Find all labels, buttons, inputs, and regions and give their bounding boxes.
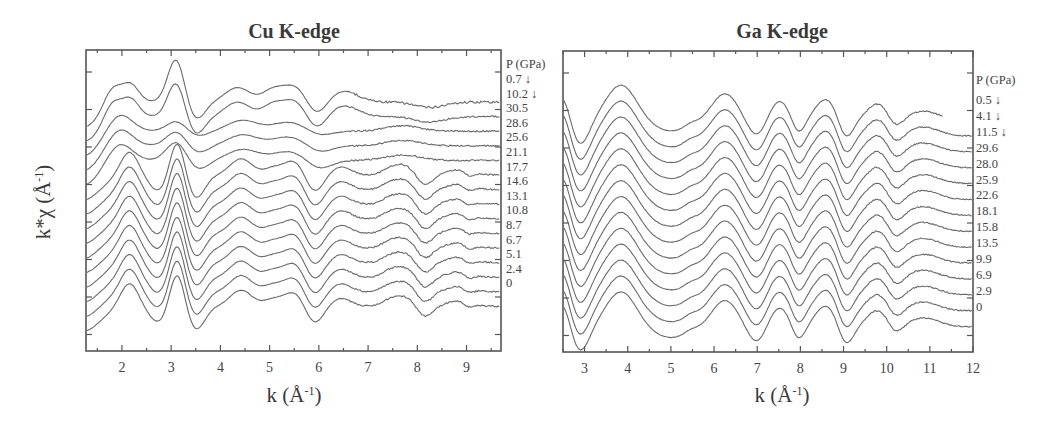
ga-title: Ga K-edge bbox=[736, 20, 828, 43]
legend-label: 6.9 bbox=[976, 268, 992, 282]
legend-label: 28.6 bbox=[506, 116, 528, 130]
legend-label: 2.4 bbox=[506, 262, 522, 276]
x-tick-label: 7 bbox=[754, 361, 761, 376]
legend-label: 22.6 bbox=[976, 188, 998, 202]
x-tick-label: 12 bbox=[966, 361, 980, 376]
cu-panel: Cu K-edge 23456789 k (Å-1) P (GPa) 0.7 ↓… bbox=[86, 20, 545, 407]
cu-x-axis-label: k (Å-1) bbox=[267, 383, 322, 407]
ga-curves bbox=[564, 85, 972, 350]
x-tick-label: 5 bbox=[667, 361, 674, 376]
ga-panel: Ga K-edge 3456789101112 k (Å-1) P (GPa) … bbox=[563, 20, 1015, 407]
legend-label: 0 bbox=[976, 300, 982, 314]
spectrum-curve-25.6 bbox=[87, 143, 499, 185]
legend-label: 6.7 bbox=[506, 233, 522, 247]
x-tick-label: 10 bbox=[880, 361, 894, 376]
legend-label: 11.5 ↓ bbox=[976, 125, 1007, 139]
cu-title: Cu K-edge bbox=[248, 20, 340, 43]
legend-label: 8.7 bbox=[506, 218, 522, 232]
legend-label: 25.9 bbox=[976, 173, 998, 187]
exafs-figure: k*χ (Å-1) Cu K-edge 23456789 k (Å-1) P (… bbox=[0, 0, 1064, 434]
legend-label: 14.6 bbox=[506, 174, 528, 188]
cu-legend: 0.7 ↓10.2 ↓30.528.625.621.117.714.613.11… bbox=[506, 72, 537, 290]
cu-curves bbox=[87, 60, 499, 331]
spectrum-curve-0 bbox=[564, 292, 972, 350]
spectrum-curve-0.5 bbox=[564, 85, 943, 143]
legend-label: 21.1 bbox=[506, 145, 528, 159]
legend-label: 13.5 bbox=[976, 236, 998, 250]
legend-label: 4.1 ↓ bbox=[976, 109, 1001, 123]
legend-label: 9.9 bbox=[976, 252, 992, 266]
ga-legend: 0.5 ↓4.1 ↓11.5 ↓29.628.025.922.618.115.8… bbox=[976, 93, 1007, 314]
ga-legend-title: P (GPa) bbox=[976, 73, 1015, 87]
spectrum-curve-28.6 bbox=[87, 130, 499, 170]
legend-label: 0.7 ↓ bbox=[506, 72, 531, 86]
x-tick-label: 11 bbox=[923, 361, 936, 376]
y-axis-label: k*χ (Å-1) bbox=[31, 165, 55, 240]
legend-label: 18.1 bbox=[976, 204, 998, 218]
cu-frame bbox=[86, 50, 501, 351]
x-tick-label: 4 bbox=[624, 361, 631, 376]
x-tick-label: 4 bbox=[217, 360, 224, 375]
cu-ticks bbox=[86, 50, 501, 351]
spectrum-curve-10.2 bbox=[87, 84, 499, 141]
x-tick-label: 2 bbox=[118, 360, 125, 375]
x-tick-label: 9 bbox=[840, 361, 847, 376]
legend-label: 29.6 bbox=[976, 141, 998, 155]
legend-label: 28.0 bbox=[976, 157, 998, 171]
legend-label: 0.5 ↓ bbox=[976, 93, 1001, 107]
x-tick-label: 9 bbox=[463, 360, 470, 375]
cu-legend-title: P (GPa) bbox=[506, 57, 545, 71]
cu-tick-labels: 23456789 bbox=[118, 360, 470, 375]
legend-label: 25.6 bbox=[506, 130, 528, 144]
legend-label: 17.7 bbox=[506, 160, 528, 174]
legend-label: 0 bbox=[506, 276, 512, 290]
legend-label: 30.5 bbox=[506, 101, 528, 115]
x-tick-label: 8 bbox=[797, 361, 804, 376]
x-tick-label: 5 bbox=[266, 360, 273, 375]
x-tick-label: 6 bbox=[711, 361, 718, 376]
x-tick-label: 3 bbox=[581, 361, 588, 376]
legend-label: 15.8 bbox=[976, 220, 998, 234]
legend-label: 13.1 bbox=[506, 189, 528, 203]
legend-label: 5.1 bbox=[506, 247, 522, 261]
x-tick-label: 7 bbox=[365, 360, 372, 375]
ga-x-axis-label: k (Å-1) bbox=[755, 383, 810, 407]
x-tick-label: 3 bbox=[168, 360, 175, 375]
spectrum-curve-0.7 bbox=[87, 60, 499, 126]
ga-tick-labels: 3456789101112 bbox=[581, 361, 980, 376]
legend-label: 10.8 bbox=[506, 203, 528, 217]
legend-label: 2.9 bbox=[976, 284, 992, 298]
legend-label: 10.2 ↓ bbox=[506, 87, 537, 101]
x-tick-label: 8 bbox=[414, 360, 421, 375]
x-tick-label: 6 bbox=[315, 360, 322, 375]
